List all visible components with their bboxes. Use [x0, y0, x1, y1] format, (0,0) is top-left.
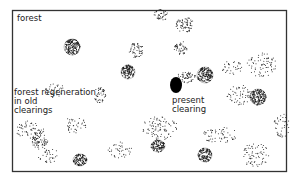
stipple-dot — [233, 73, 234, 74]
stipple-dot — [142, 50, 143, 51]
stipple-dot — [125, 73, 126, 74]
stipple-dot — [277, 124, 278, 125]
stipple-dot — [205, 134, 206, 135]
stipple-dot — [200, 159, 201, 160]
stipple-dot — [185, 18, 186, 19]
stipple-dot — [165, 11, 166, 12]
stipple-dot — [180, 76, 181, 77]
stipple-dot — [275, 68, 276, 69]
stipple-dot — [254, 93, 255, 94]
stipple-dot — [237, 66, 238, 67]
stipple-dot — [131, 71, 132, 72]
stipple-dot — [258, 55, 259, 56]
stipple-dot — [248, 95, 249, 96]
stipple-dot — [76, 159, 77, 160]
stipple-dot — [245, 97, 246, 98]
stipple-dot — [37, 133, 38, 134]
stipple-dot — [243, 91, 244, 92]
stipple-dot — [183, 28, 184, 29]
stipple-dot — [24, 126, 25, 127]
stipple-dot — [156, 139, 157, 140]
stipple-dot — [185, 27, 186, 28]
stipple-dot — [249, 145, 250, 146]
stipple-dot — [209, 78, 210, 79]
label-forest: forest — [17, 13, 42, 23]
stipple-dot — [120, 142, 121, 143]
stipple-dot — [70, 122, 71, 123]
stipple-dot — [36, 143, 37, 144]
stipple-dot — [138, 48, 139, 49]
stipple-dot — [82, 163, 83, 164]
stipple-dot — [260, 72, 261, 73]
stipple-dot — [228, 67, 229, 68]
stipple-dot — [187, 76, 188, 77]
stipple-dot — [116, 148, 117, 149]
stipple-dot — [145, 123, 146, 124]
stipple-dot — [200, 71, 201, 72]
stipple-dot — [143, 131, 144, 132]
stipple-dot — [46, 150, 47, 151]
stipple-dot — [234, 92, 235, 93]
stipple-dot — [204, 67, 205, 68]
stipple-dot — [25, 131, 26, 132]
stipple-dot — [39, 142, 40, 143]
stipple-dot — [262, 161, 263, 162]
stipple-dot — [121, 151, 122, 152]
forest-patch-dense — [73, 154, 87, 166]
stipple-dot — [165, 15, 166, 16]
stipple-dot — [252, 57, 253, 58]
stipple-dot — [251, 91, 252, 92]
stipple-dot — [271, 66, 272, 67]
stipple-dot — [262, 53, 263, 54]
stipple-dot — [194, 75, 195, 76]
stipple-dot — [233, 62, 234, 63]
stipple-dot — [68, 128, 69, 129]
stipple-dot — [77, 126, 78, 127]
stipple-dot — [282, 135, 283, 136]
stipple-dot — [68, 52, 69, 53]
stipple-dot — [186, 19, 187, 20]
stipple-dot — [227, 141, 228, 142]
stipple-dot — [161, 146, 162, 147]
stipple-dot — [255, 67, 256, 68]
stipple-dot — [215, 130, 216, 131]
stipple-dot — [254, 71, 255, 72]
stipple-dot — [253, 156, 254, 157]
stipple-dot — [54, 161, 55, 162]
stipple-dot — [234, 102, 235, 103]
stipple-dot — [187, 20, 188, 21]
stipple-dot — [276, 123, 277, 124]
stipple-dot — [251, 72, 252, 73]
stipple-dot — [240, 63, 241, 64]
stipple-dot — [187, 78, 188, 79]
stipple-dot — [255, 75, 256, 76]
stipple-dot — [20, 135, 21, 136]
stipple-dot — [129, 67, 130, 68]
stipple-dot — [186, 27, 187, 28]
stipple-dot — [210, 157, 211, 158]
stipple-dot — [132, 43, 133, 44]
stipple-dot — [207, 80, 208, 81]
stipple-dot — [237, 69, 238, 70]
stipple-dot — [152, 136, 153, 137]
stipple-dot — [38, 149, 39, 150]
stipple-dot — [26, 126, 27, 127]
stipple-dot — [181, 50, 182, 51]
stipple-dot — [259, 74, 260, 75]
stipple-dot — [231, 137, 232, 138]
stipple-dot — [76, 132, 77, 133]
stipple-dot — [255, 99, 256, 100]
stipple-dot — [140, 55, 141, 56]
stipple-dot — [155, 129, 156, 130]
stipple-dot — [274, 121, 275, 122]
stipple-dot — [245, 95, 246, 96]
stipple-dot — [187, 19, 188, 20]
forest-patch-scattered — [17, 121, 44, 141]
stipple-dot — [170, 136, 171, 137]
stipple-dot — [261, 164, 262, 165]
stipple-dot — [237, 95, 238, 96]
stipple-dot — [227, 137, 228, 138]
stipple-dot — [224, 64, 225, 65]
stipple-dot — [33, 136, 34, 137]
stipple-dot — [76, 160, 77, 161]
